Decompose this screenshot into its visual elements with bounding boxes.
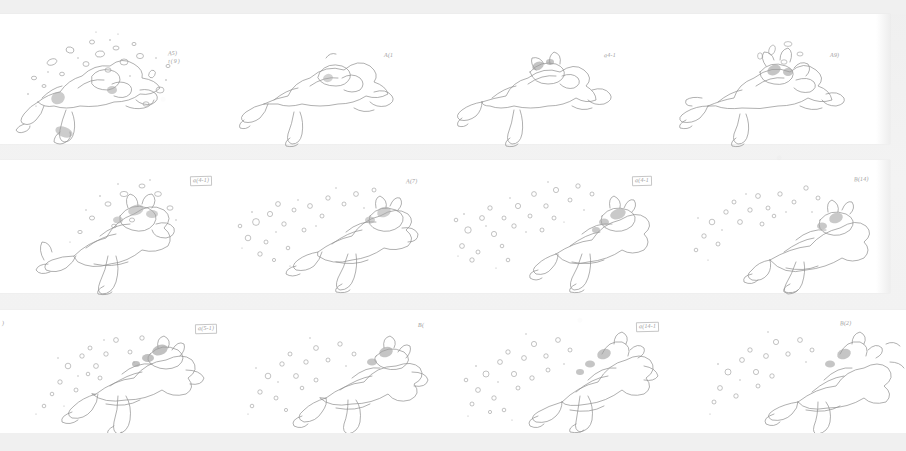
frame-annotation-11: a(14-1 xyxy=(636,322,659,333)
frame-annotation-10: B( xyxy=(418,322,424,329)
frame-annotation-2: A(1 xyxy=(384,52,393,59)
drawing-frame-12 xyxy=(680,310,906,433)
frame-cell-1[interactable]: A5) t(9) xyxy=(0,14,224,144)
frame-cell-9[interactable]: ) xyxy=(0,310,228,433)
frame-annotation-4: A9) xyxy=(830,52,839,59)
contact-sheet: A5) t(9) xyxy=(0,0,906,451)
frame-cell-5[interactable]: a(4-1) xyxy=(0,160,224,293)
film-strip-row-2: a(4-1) xyxy=(0,160,890,293)
frame-cell-12[interactable]: B(2) xyxy=(680,310,906,433)
frame-annotation-5: a(4-1) xyxy=(190,176,212,187)
frame-cell-3[interactable]: a4-1 xyxy=(446,14,668,144)
frame-annotation-8: B(14) xyxy=(854,176,869,183)
frame-cell-11[interactable]: a(14-1 xyxy=(454,310,680,433)
frame-cell-10[interactable]: B( xyxy=(228,310,454,433)
film-strip-row-1: A5) t(9) xyxy=(0,14,890,144)
frame-annotation-6: A(7) xyxy=(406,178,418,185)
drawing-frame-4 xyxy=(668,14,890,144)
frame-cell-6[interactable]: A(7) xyxy=(224,160,446,293)
frame-cell-8[interactable]: B(14) xyxy=(668,160,890,293)
frame-annotation-3: a4-1 xyxy=(604,52,616,59)
frame-cell-2[interactable]: A(1 xyxy=(224,14,446,144)
frame-cell-7[interactable]: a(4-1 xyxy=(446,160,668,293)
frame-annotation-12: B(2) xyxy=(840,320,852,327)
drawing-frame-1 xyxy=(0,14,224,144)
film-strip-row-3: ) xyxy=(0,310,906,433)
drawing-frame-9 xyxy=(0,310,228,433)
frame-annotation-7: a(4-1 xyxy=(632,176,652,187)
strip-right-fade-1 xyxy=(876,14,890,144)
frame-cell-4[interactable]: A9) xyxy=(668,14,890,144)
drawing-frame-3 xyxy=(446,14,668,144)
sheet-bottom-band xyxy=(0,433,906,451)
sheet-top-band xyxy=(0,0,906,14)
frame-annotation-9: a(5-1) xyxy=(195,324,217,335)
drawing-frame-2 xyxy=(224,14,446,144)
strip-right-fade-2 xyxy=(876,160,890,293)
frame-annotation-1: A5) t(9) xyxy=(168,50,181,65)
